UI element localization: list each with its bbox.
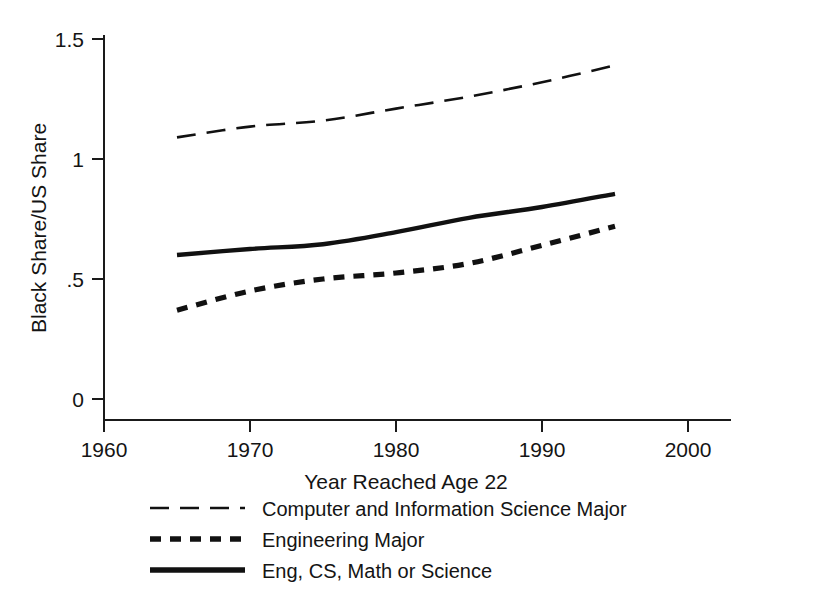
legend-label-computer-science: Computer and Information Science Major	[262, 498, 627, 520]
x-tick-label-1980: 1980	[373, 438, 420, 461]
x-axis-title: Year Reached Age 22	[304, 470, 508, 493]
x-tick-label-1990: 1990	[519, 438, 566, 461]
x-tick-label-1960: 1960	[81, 438, 128, 461]
y-axis-title: Black Share/US Share	[27, 123, 50, 333]
x-tick-label-1970: 1970	[227, 438, 274, 461]
y-tick-label-2: 1	[72, 148, 84, 171]
x-tick-label-2000: 2000	[665, 438, 712, 461]
y-tick-label-1: 1.5	[55, 28, 84, 51]
legend-label-engineering: Engineering Major	[262, 529, 425, 551]
chart-canvas: 1.5 1 .5 0 1960 1970 1980 1990 2000 Blac…	[0, 0, 830, 601]
y-tick-label-3: .5	[66, 268, 84, 291]
y-tick-label-4: 0	[72, 388, 84, 411]
chart-figure: 1.5 1 .5 0 1960 1970 1980 1990 2000 Blac…	[0, 0, 830, 601]
legend-label-eng-cs-math-science: Eng, CS, Math or Science	[262, 560, 492, 582]
